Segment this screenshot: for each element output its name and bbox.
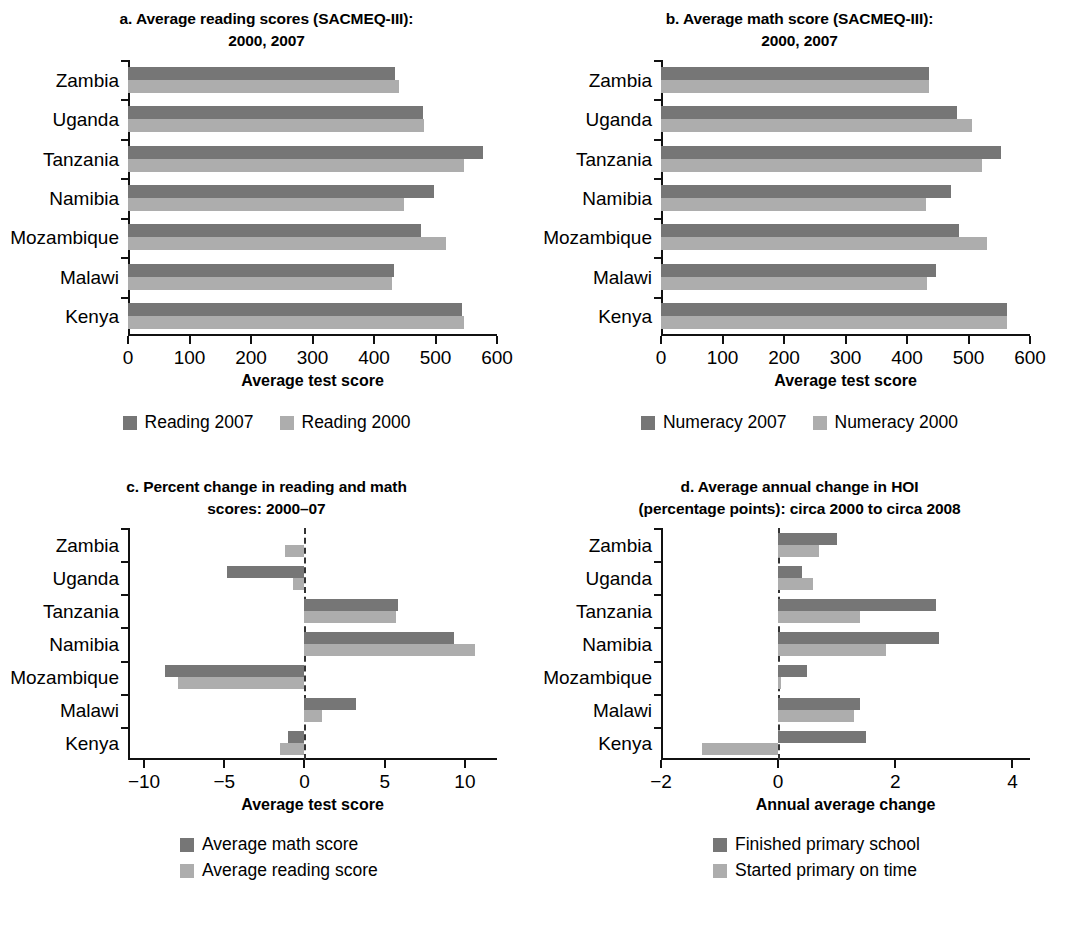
chart-d-plot: ZambiaUgandaTanzaniaNamibiaMozambiqueMal…	[661, 528, 1030, 760]
chart-a-x-axis-title: Average test score	[128, 372, 497, 390]
chart-d-row: Uganda	[661, 561, 1030, 594]
x-tick-label: 200	[235, 347, 267, 369]
bar	[128, 237, 446, 250]
bar-slot	[128, 698, 497, 710]
chart-a-category-label: Namibia	[49, 188, 119, 207]
chart-b-category-label: Mozambique	[543, 228, 652, 247]
bar-slot	[128, 578, 497, 590]
chart-b-x-axis-title: Average test score	[661, 372, 1030, 390]
y-tick-mark	[654, 60, 661, 62]
bar	[778, 611, 860, 623]
x-tick-label: 0	[123, 347, 134, 369]
chart-c-legend: Average math scoreAverage reading score	[180, 834, 533, 881]
chart-c-category-label: Malawi	[60, 701, 119, 720]
bar-slot	[661, 185, 1030, 198]
bar-slot	[661, 731, 1030, 743]
x-tick-label: −2	[650, 771, 672, 793]
legend-label: Finished primary school	[735, 834, 920, 855]
bar	[285, 545, 304, 557]
chart-d-rows: ZambiaUgandaTanzaniaNamibiaMozambiqueMal…	[661, 528, 1030, 760]
chart-a-title: a. Average reading scores (SACMEQ-III): …	[0, 0, 533, 52]
chart-b-rows: ZambiaUgandaTanzaniaNamibiaMozambiqueMal…	[661, 60, 1030, 336]
bar	[778, 632, 939, 644]
chart-b-row: Mozambique	[661, 218, 1030, 257]
chart-a-plot: ZambiaUgandaTanzaniaNamibiaMozambiqueMal…	[128, 60, 497, 336]
chart-a-category-label: Kenya	[65, 307, 119, 326]
legend-label: Numeracy 2007	[663, 412, 787, 433]
bar	[227, 566, 304, 578]
legend-swatch-icon	[123, 416, 137, 430]
bar	[661, 80, 929, 93]
bar-slot	[128, 731, 497, 743]
bar-slot	[128, 743, 497, 755]
x-tick-mark	[303, 760, 305, 768]
bar-slot	[128, 566, 497, 578]
chart-a-row: Uganda	[128, 99, 497, 138]
legend-item[interactable]: Reading 2007	[123, 412, 254, 433]
x-tick-mark	[496, 336, 498, 344]
legend-label: Numeracy 2000	[835, 412, 959, 433]
chart-b-title: b. Average math score (SACMEQ-III): 2000…	[533, 0, 1066, 52]
x-tick-label: 400	[891, 347, 923, 369]
bar-slot	[128, 264, 497, 277]
y-tick-mark	[121, 727, 128, 729]
bar-slot	[128, 277, 497, 290]
chart-c-category-label: Namibia	[49, 634, 119, 653]
x-tick-label: 600	[481, 347, 513, 369]
bar-slot	[128, 185, 497, 198]
legend-swatch-icon	[180, 864, 194, 878]
chart-b-row: Malawi	[661, 257, 1030, 296]
chart-b-plot-wrap: ZambiaUgandaTanzaniaNamibiaMozambiqueMal…	[533, 60, 1066, 433]
bar	[128, 106, 423, 119]
chart-d-legend: Finished primary schoolStarted primary o…	[713, 834, 1066, 881]
bar	[128, 80, 399, 93]
legend-item[interactable]: Numeracy 2000	[813, 412, 959, 433]
y-tick-mark	[121, 257, 128, 259]
bar-slot	[661, 119, 1030, 132]
bar	[661, 264, 936, 277]
bar	[778, 677, 781, 689]
x-tick-mark	[968, 336, 970, 344]
y-tick-mark	[654, 297, 661, 299]
bar	[178, 677, 305, 689]
y-tick-mark	[121, 139, 128, 141]
x-tick-mark	[373, 336, 375, 344]
y-tick-mark	[121, 60, 128, 62]
chart-a-category-label: Tanzania	[43, 149, 119, 168]
legend-item[interactable]: Average reading score	[180, 860, 378, 881]
legend-item[interactable]: Reading 2000	[280, 412, 411, 433]
bar-slot	[661, 611, 1030, 623]
bar	[128, 224, 421, 237]
x-tick-mark	[783, 336, 785, 344]
legend-item[interactable]: Numeracy 2007	[641, 412, 787, 433]
legend-item[interactable]: Started primary on time	[713, 860, 917, 881]
legend-item[interactable]: Average math score	[180, 834, 358, 855]
bar	[661, 67, 929, 80]
legend-swatch-icon	[180, 838, 194, 852]
x-tick-label: 400	[358, 347, 390, 369]
bar	[661, 106, 957, 119]
chart-a-row: Malawi	[128, 257, 497, 296]
x-tick-label: 0	[773, 771, 784, 793]
bar	[128, 146, 483, 159]
chart-c-row: Tanzania	[128, 594, 497, 627]
bar	[661, 224, 959, 237]
legend-swatch-icon	[713, 864, 727, 878]
bar-slot	[661, 316, 1030, 329]
bar	[128, 316, 464, 329]
y-tick-mark	[654, 178, 661, 180]
x-tick-mark	[845, 336, 847, 344]
chart-panel-d: d. Average annual change in HOI (percent…	[533, 468, 1066, 936]
y-tick-mark	[121, 694, 128, 696]
bar-slot	[661, 264, 1030, 277]
chart-c-row: Uganda	[128, 561, 497, 594]
chart-d-row: Zambia	[661, 528, 1030, 561]
bar	[778, 665, 807, 677]
chart-b-category-label: Zambia	[589, 70, 652, 89]
x-tick-mark	[250, 336, 252, 344]
legend-item[interactable]: Finished primary school	[713, 834, 920, 855]
bar	[661, 185, 951, 198]
chart-c-row: Kenya	[128, 727, 497, 760]
bar	[778, 710, 854, 722]
x-tick-mark	[660, 336, 662, 344]
